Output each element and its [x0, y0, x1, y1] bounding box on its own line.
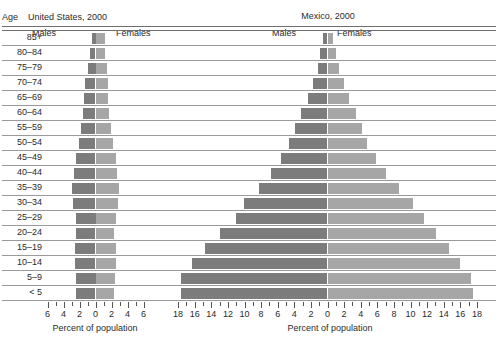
axis-tick — [228, 302, 229, 308]
mexico-female-bar — [328, 243, 449, 254]
age-group-label: 50–54 — [0, 137, 42, 147]
united-states-male-bar — [74, 168, 96, 179]
axis-tick — [261, 302, 262, 308]
age-group-label: < 5 — [0, 287, 42, 297]
united-states-male-bar — [84, 93, 95, 104]
united-states-x-axis-label: Percent of population — [10, 323, 180, 333]
mexico-female-bar — [328, 258, 461, 269]
gridline — [2, 270, 496, 271]
age-group-label: 65–69 — [0, 92, 42, 102]
age-group-label: 30–34 — [0, 197, 42, 207]
united-states-male-bar — [75, 243, 96, 254]
mexico-male-bar — [181, 273, 327, 284]
gridline — [2, 255, 496, 256]
axis-tick — [278, 302, 279, 308]
united-states-female-bar — [96, 273, 115, 284]
gridline — [2, 135, 496, 136]
mexico-male-bar — [308, 93, 328, 104]
age-group-label: 5–9 — [0, 272, 42, 282]
axis-tick — [195, 302, 196, 308]
mexico-male-bar — [301, 108, 328, 119]
axis-tick — [427, 302, 428, 308]
axis-tick — [319, 302, 320, 306]
axis-tick — [253, 302, 254, 306]
united-states-female-bar — [96, 258, 116, 269]
axis-tick — [377, 302, 378, 308]
age-group-label: 55–59 — [0, 122, 42, 132]
united-states-male-bar — [76, 213, 96, 224]
gridline — [2, 90, 496, 91]
mexico-male-bar — [244, 198, 328, 209]
age-group-label: 40–44 — [0, 167, 42, 177]
gridline — [2, 180, 496, 181]
mexico-female-bar — [328, 228, 437, 239]
mexico-female-bar — [328, 108, 356, 119]
united-states-male-bar — [76, 288, 95, 299]
united-states-male-bar — [72, 183, 95, 194]
mexico-female-bar — [328, 138, 368, 149]
united-states-male-bar — [85, 78, 95, 89]
mexico-male-bar — [289, 138, 327, 149]
axis-tick — [344, 302, 345, 308]
mexico-female-bar — [328, 198, 413, 209]
united-states-female-bar — [96, 108, 110, 119]
age-group-label: 85+ — [0, 32, 42, 42]
mexico-male-bar — [220, 228, 328, 239]
mexico-female-bar — [328, 33, 334, 44]
united-states-male-bar — [88, 63, 96, 74]
mexico-female-bar — [328, 213, 424, 224]
mexico-male-bar — [205, 243, 328, 254]
gridline — [2, 120, 496, 121]
mexico-female-bar — [328, 93, 350, 104]
axis-tick — [336, 302, 337, 306]
gridline — [2, 165, 496, 166]
gridline — [2, 105, 496, 106]
axis-tick — [178, 302, 179, 308]
mexico-female-bar — [328, 168, 386, 179]
united-states-male-bar — [76, 273, 96, 284]
united-states-female-bar — [96, 168, 118, 179]
mexico-tick-label: 18 — [467, 309, 487, 319]
united-states-female-bar — [96, 138, 114, 149]
mexico-male-bar — [259, 183, 327, 194]
gridline — [2, 75, 496, 76]
gridline — [2, 210, 496, 211]
axis-tick — [186, 302, 187, 306]
gridline — [2, 240, 496, 241]
age-group-label: 75–79 — [0, 62, 42, 72]
united-states-male-bar — [75, 258, 96, 269]
mexico-female-bar — [328, 153, 376, 164]
mexico-male-bar — [271, 168, 327, 179]
mexico-x-axis-label: Percent of population — [245, 323, 415, 333]
age-group-label: 10–14 — [0, 257, 42, 267]
united-states-female-bar — [96, 213, 116, 224]
age-group-label: 45–49 — [0, 152, 42, 162]
axis-tick — [203, 302, 204, 306]
mexico-male-bar — [281, 153, 327, 164]
mexico-male-bar — [313, 78, 328, 89]
mexico-male-bar — [181, 288, 328, 299]
mexico-female-bar — [328, 63, 340, 74]
united-states-female-bar — [96, 198, 118, 209]
axis-tick — [245, 302, 246, 308]
axis-tick — [220, 302, 221, 306]
united-states-female-bar — [96, 93, 109, 104]
axis-tick — [402, 302, 403, 306]
united-states-female-bar — [96, 288, 114, 299]
gridline — [2, 60, 496, 61]
axis-tick — [211, 302, 212, 308]
united-states-female-bar — [96, 63, 107, 74]
gridline — [2, 150, 496, 151]
gridline — [2, 225, 496, 226]
axis-tick — [394, 302, 395, 308]
united-states-panel-title: United States, 2000 — [28, 12, 168, 22]
header-rule — [2, 26, 496, 27]
axis-tick — [236, 302, 237, 306]
united-states-male-bar — [76, 228, 95, 239]
axis-tick — [469, 302, 470, 306]
axis-tick — [452, 302, 453, 306]
mexico-tick-row — [0, 302, 498, 309]
united-states-male-bar — [79, 138, 96, 149]
united-states-female-bar — [96, 48, 106, 59]
axis-tick — [269, 302, 270, 306]
